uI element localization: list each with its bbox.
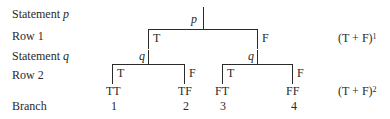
branch-number-1: 1 [111,100,117,113]
label-statement-p: Statement p [12,8,69,21]
variable-p: p [63,7,69,21]
leaf-ft: FT [215,85,229,98]
row2-lr-label-F: F [189,67,196,80]
formula-exponent: 1 [373,32,377,41]
formula-row2: (T + F)2 [338,85,377,98]
formula-row1: (T + F)1 [338,32,377,45]
q-left-variable: q [139,50,145,63]
q-right-variable: q [248,50,254,63]
branch-number-3: 3 [220,100,226,113]
leaf-tf-drop-line [184,64,185,84]
row1-left-drop-line [148,29,149,49]
root-stem-line [203,7,204,30]
formula-exponent: 2 [373,85,377,94]
leaf-tt-drop-line [112,64,113,84]
q-right-stem-line [257,50,258,65]
row2-ll-label-T: T [117,67,124,80]
formula-base: (T + F) [338,84,373,98]
variable-q: q [63,49,69,63]
label-branch: Branch [12,100,47,113]
leaf-ft-drop-line [222,64,223,84]
row2-rr-label-F: F [297,67,304,80]
row1-right-label-F: F [262,32,269,45]
leaf-tf: TF [178,85,192,98]
root-variable-p: p [191,13,197,26]
label-row-2: Row 2 [12,69,44,82]
leaf-tt: TT [106,85,121,98]
label-row-1: Row 1 [12,30,44,43]
label-statement-q: Statement q [12,50,69,63]
q-left-stem-line [148,50,149,65]
row1-right-drop-line [257,29,258,49]
label-text: Statement [12,7,60,21]
row1-left-label-T: T [153,32,160,45]
row1-horizontal-line [148,29,258,30]
branch-number-2: 2 [183,100,189,113]
leaf-ff: FF [286,85,299,98]
row2-rl-label-T: T [227,67,234,80]
label-text: Statement [12,49,60,63]
branch-number-4: 4 [291,100,297,113]
formula-base: (T + F) [338,31,373,45]
leaf-ff-drop-line [292,64,293,84]
